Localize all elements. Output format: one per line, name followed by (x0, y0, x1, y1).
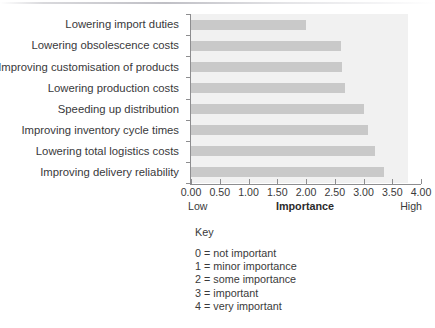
x-axis-line (190, 184, 421, 185)
y-axis-tick (186, 162, 190, 163)
x-axis-tick-label: 2.50 (324, 186, 345, 198)
bar (191, 83, 345, 93)
category-label: Lowering production costs (0, 77, 185, 98)
axis-high-label: High (400, 200, 422, 212)
bar (191, 146, 375, 156)
y-axis-tick (186, 35, 190, 36)
bar-row (191, 120, 421, 141)
bar-row (191, 56, 421, 77)
x-axis-tick (421, 179, 422, 184)
x-axis-tick (392, 179, 393, 184)
x-axis-tick-label: 0.00 (181, 186, 202, 198)
bar-row (191, 14, 421, 35)
x-axis-tick-label: 0.50 (209, 186, 230, 198)
x-axis-tick-label: 2.00 (296, 186, 317, 198)
y-axis-tick (186, 14, 190, 15)
y-axis-tick (186, 141, 190, 142)
y-axis-line (190, 14, 191, 184)
y-axis-tick (186, 77, 190, 78)
x-axis-tick (364, 179, 365, 184)
category-label: Lowering total logistics costs (0, 141, 185, 162)
bar-row (191, 77, 421, 98)
bar-series (191, 14, 421, 183)
category-label: Improving customisation of products (0, 56, 185, 77)
x-axis-tick (277, 179, 278, 184)
bar (191, 104, 364, 114)
y-axis-tick (186, 99, 190, 100)
x-axis-tick (306, 179, 307, 184)
x-axis-tick-label: 3.50 (382, 186, 403, 198)
x-axis-tick (191, 179, 192, 184)
x-axis-tick-label: 4.00 (411, 186, 432, 198)
category-label: Lowering import duties (0, 14, 185, 35)
key-item: 4 = very important (195, 300, 375, 313)
bar (191, 125, 368, 135)
category-label: Lowering obsolescence costs (0, 35, 185, 56)
category-label: Speeding up distribution (0, 99, 185, 120)
bar-row (191, 99, 421, 120)
key-item: 1 = minor importance (195, 260, 375, 273)
key-item: 2 = some importance (195, 273, 375, 286)
category-axis-labels: Lowering import duties Lowering obsolesc… (0, 14, 185, 183)
bar (191, 62, 342, 72)
y-axis-tick (186, 56, 190, 57)
x-axis-tick-label: 1.00 (238, 186, 259, 198)
x-axis-tick-label: 1.50 (267, 186, 288, 198)
x-axis-title: Importance (188, 200, 422, 212)
y-axis-tick (186, 183, 190, 184)
y-axis-tick (186, 120, 190, 121)
x-axis-tick-label: 3.00 (353, 186, 374, 198)
x-axis-tick-labels: 0.000.501.001.502.002.503.003.504.00 (0, 186, 435, 200)
bar-row (191, 141, 421, 162)
x-axis-tick (335, 179, 336, 184)
x-axis-tick (249, 179, 250, 184)
bar-row (191, 35, 421, 56)
bar (191, 20, 306, 30)
key-item: 3 = important (195, 287, 375, 300)
key-legend: Key 0 = not important 1 = minor importan… (195, 226, 375, 313)
bar (191, 41, 341, 51)
category-label: Improving inventory cycle times (0, 120, 185, 141)
key-title: Key (195, 226, 375, 238)
bar (191, 167, 384, 177)
axis-caption: Low Importance High (188, 200, 422, 214)
key-item: 0 = not important (195, 247, 375, 260)
category-label: Improving delivery reliability (0, 162, 185, 183)
x-axis-tick (220, 179, 221, 184)
